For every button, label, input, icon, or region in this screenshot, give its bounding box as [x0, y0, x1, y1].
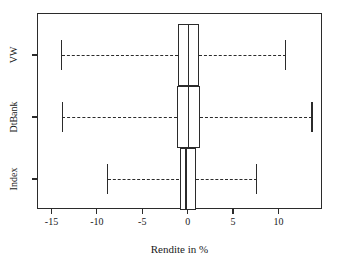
x-tick-label: -15 — [32, 216, 72, 228]
whisker-high-line — [196, 179, 257, 180]
boxplot-figure: -15-10-50510 VWDtBankIndex Rendite in % — [0, 0, 344, 267]
x-tick--10 — [96, 209, 97, 214]
x-tick-5 — [232, 209, 233, 214]
median-line — [188, 86, 189, 148]
x-tick-label: 5 — [213, 216, 253, 228]
whisker-high-line — [200, 117, 312, 118]
whisker-low-line — [108, 179, 180, 180]
whisker-low-line — [62, 55, 178, 56]
median-line — [185, 148, 186, 210]
y-tick-label-dtbank: DtBank — [8, 87, 20, 147]
x-tick-label: 10 — [258, 216, 298, 228]
whisker-high-line — [199, 55, 286, 56]
whisker-low-line — [62, 117, 176, 118]
x-tick-10 — [278, 209, 279, 214]
x-tick--15 — [51, 209, 52, 214]
x-tick--5 — [142, 209, 143, 214]
y-tick-label-index: Index — [8, 149, 20, 209]
quartile-box — [180, 148, 196, 210]
y-tick-dtbank — [32, 116, 37, 117]
x-tick-label: -5 — [122, 216, 162, 228]
median-line — [188, 24, 189, 86]
whisker-low-cap — [61, 40, 62, 70]
whisker-high-cap — [311, 102, 312, 132]
x-axis-title: Rendite in % — [37, 243, 322, 255]
y-tick-vw — [32, 54, 37, 55]
whisker-low-cap — [107, 164, 108, 194]
whisker-high-cap — [256, 164, 257, 194]
y-tick-index — [32, 178, 37, 179]
x-tick-label: -10 — [77, 216, 117, 228]
y-tick-label-vw: VW — [8, 25, 20, 85]
x-tick-label: 0 — [168, 216, 208, 228]
whisker-high-cap — [285, 40, 286, 70]
whisker-low-cap — [62, 102, 63, 132]
